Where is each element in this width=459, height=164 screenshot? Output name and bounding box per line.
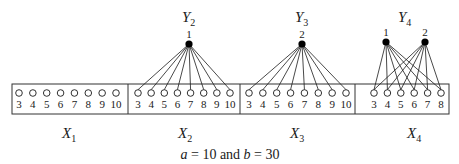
x-node-label: 5 xyxy=(44,98,50,110)
x-node-label: 5 xyxy=(162,98,168,110)
x-node-label: 8 xyxy=(201,98,207,110)
x-node-label: 5 xyxy=(274,98,280,110)
x-node-label: 4 xyxy=(385,98,391,110)
edge xyxy=(386,42,387,90)
x-node xyxy=(398,90,405,97)
edge xyxy=(374,42,386,90)
x-node-label: 3 xyxy=(135,98,141,110)
x-node xyxy=(148,90,155,97)
x-node xyxy=(260,90,267,97)
x-node xyxy=(187,90,194,97)
y-node xyxy=(185,40,192,47)
edge xyxy=(302,44,346,90)
y2-group-label: Y2 xyxy=(182,9,195,28)
x-node xyxy=(43,90,50,97)
x-node-label: 6 xyxy=(175,98,181,110)
edge xyxy=(374,42,425,90)
x-node xyxy=(71,90,78,97)
x-node-label: 9 xyxy=(99,98,105,110)
x-node xyxy=(99,90,106,97)
x-node xyxy=(30,90,37,97)
caption: a = 10 and b = 30 xyxy=(180,147,279,162)
x-node xyxy=(411,90,418,97)
edges xyxy=(138,42,441,90)
x-node xyxy=(301,90,308,97)
edge xyxy=(386,42,414,90)
x-node xyxy=(135,90,142,97)
x-node xyxy=(161,90,168,97)
x-node-label: 3 xyxy=(246,98,252,110)
x-node xyxy=(85,90,92,97)
x-node-label: 4 xyxy=(260,98,266,110)
x-node-label: 9 xyxy=(214,98,220,110)
x-node-label: 3 xyxy=(371,98,377,110)
x3-group-label: X3 xyxy=(289,125,304,144)
y3-group-label: Y3 xyxy=(295,9,308,28)
edge xyxy=(138,44,189,90)
edge xyxy=(164,44,189,90)
y4-node-2-label: 2 xyxy=(422,26,428,38)
x-node xyxy=(227,90,234,97)
x-node xyxy=(343,90,350,97)
y-node xyxy=(382,38,389,45)
diagram-canvas: 345678910345678910345678910345678 Y2 Y3 … xyxy=(0,0,459,164)
x-node xyxy=(57,90,64,97)
edge xyxy=(189,44,230,90)
y2-node-1-label: 1 xyxy=(186,28,192,40)
x-node-label: 7 xyxy=(425,98,431,110)
x-node xyxy=(16,90,23,97)
x-node-label: 10 xyxy=(341,98,353,110)
x-node xyxy=(200,90,207,97)
x-node-label: 4 xyxy=(148,98,154,110)
x2-group-label: X2 xyxy=(177,125,192,144)
x-node-label: 6 xyxy=(288,98,294,110)
y-node xyxy=(298,40,305,47)
x-node-label: 9 xyxy=(329,98,335,110)
edge xyxy=(189,44,217,90)
x-node-label: 8 xyxy=(86,98,92,110)
y4-group-label: Y4 xyxy=(398,9,411,28)
x-node xyxy=(438,90,445,97)
x-node-label: 6 xyxy=(58,98,64,110)
x-node-label: 10 xyxy=(225,98,237,110)
x-node xyxy=(113,90,120,97)
x-node-label: 8 xyxy=(316,98,322,110)
edge xyxy=(189,44,191,90)
x-node-label: 10 xyxy=(111,98,123,110)
x-node-label: 6 xyxy=(411,98,417,110)
y-node xyxy=(421,38,428,45)
bipartite-diagram: 345678910345678910345678910345678 Y2 Y3 … xyxy=(0,0,459,164)
x-nodes: 345678910345678910345678910345678 xyxy=(16,90,445,110)
x4-group-label: X4 xyxy=(406,125,421,144)
x-node xyxy=(287,90,294,97)
x-node-label: 3 xyxy=(16,98,22,110)
x-node-label: 7 xyxy=(188,98,194,110)
x-node xyxy=(174,90,181,97)
x-node-label: 4 xyxy=(30,98,36,110)
x-node-label: 5 xyxy=(398,98,404,110)
edge xyxy=(249,44,302,90)
y3-node-2-label: 2 xyxy=(299,28,305,40)
x-node xyxy=(329,90,336,97)
x1-group-label: X1 xyxy=(61,125,76,144)
x-node xyxy=(273,90,280,97)
edge xyxy=(277,44,302,90)
x-node xyxy=(384,90,391,97)
y4-node-1-label: 1 xyxy=(383,26,389,38)
x-node xyxy=(424,90,431,97)
edge xyxy=(189,44,204,90)
edge xyxy=(302,44,332,90)
x-node xyxy=(214,90,221,97)
y-nodes xyxy=(185,38,428,47)
x-node-label: 7 xyxy=(302,98,308,110)
x-node-label: 7 xyxy=(72,98,78,110)
x-node xyxy=(371,90,378,97)
x-node-label: 8 xyxy=(438,98,444,110)
x-node xyxy=(246,90,253,97)
x-node xyxy=(315,90,322,97)
